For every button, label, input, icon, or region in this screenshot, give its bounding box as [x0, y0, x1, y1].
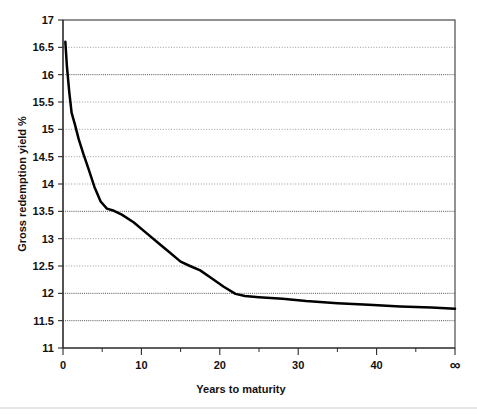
- x-tick-label-10: 10: [135, 359, 147, 371]
- y-tick-label-15.5: 15.5: [33, 96, 54, 108]
- x-tick-label-30: 30: [292, 359, 304, 371]
- x-axis: [63, 348, 455, 355]
- y-tick-label-14: 14: [42, 178, 55, 190]
- yield-curve-chart: 1111.51212.51313.51414.51515.51616.517 0…: [0, 0, 477, 418]
- y-axis-title: Gross redemption yield %: [16, 116, 28, 252]
- x-axis-title: Years to maturity: [196, 383, 286, 395]
- y-axis: [58, 20, 63, 348]
- y-tick-label-16: 16: [42, 69, 54, 81]
- y-tick-label-17: 17: [42, 14, 54, 26]
- y-tick-label-12: 12: [42, 287, 54, 299]
- y-tick-label-16.5: 16.5: [33, 41, 54, 53]
- y-tick-label-15: 15: [42, 123, 54, 135]
- y-tick-label-11.5: 11.5: [33, 315, 54, 327]
- y-tick-labels: 1111.51212.51313.51414.51515.51616.517: [33, 14, 55, 354]
- x-tick-labels: 010203040∞: [60, 356, 461, 373]
- x-tick-label-infinity: ∞: [450, 356, 461, 373]
- plot-area-border: [63, 20, 455, 348]
- x-tick-label-40: 40: [370, 359, 382, 371]
- gridlines: [63, 47, 455, 320]
- y-tick-label-14.5: 14.5: [33, 151, 54, 163]
- x-tick-label-20: 20: [214, 359, 226, 371]
- y-tick-label-13.5: 13.5: [33, 205, 54, 217]
- y-tick-label-13: 13: [42, 233, 54, 245]
- yield-curve-line: [65, 42, 455, 309]
- chart-container: 1111.51212.51313.51414.51515.51616.517 0…: [0, 0, 477, 418]
- x-tick-label-0: 0: [60, 359, 66, 371]
- y-tick-label-12.5: 12.5: [33, 260, 54, 272]
- y-tick-label-11: 11: [42, 342, 54, 354]
